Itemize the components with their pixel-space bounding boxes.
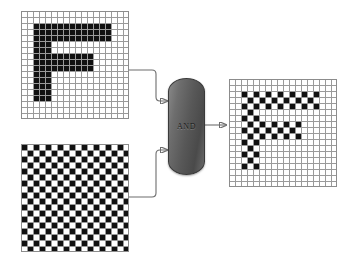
output-grid-and-result[interactable] [229,79,337,187]
input-grid-checkerboard[interactable] [21,144,129,252]
input-grid-letter-f[interactable] [21,11,129,119]
and-operator-node[interactable]: AND [168,78,205,175]
and-result-canvas [229,79,337,187]
letter-f-bitmap-canvas [21,11,129,119]
wire-input-b-to-and [129,150,167,197]
and-operator-label: AND [177,122,196,131]
checkerboard-mask-canvas [21,144,129,252]
diagram-canvas: AND [0,0,359,272]
wire-input-a-to-and [129,70,167,101]
